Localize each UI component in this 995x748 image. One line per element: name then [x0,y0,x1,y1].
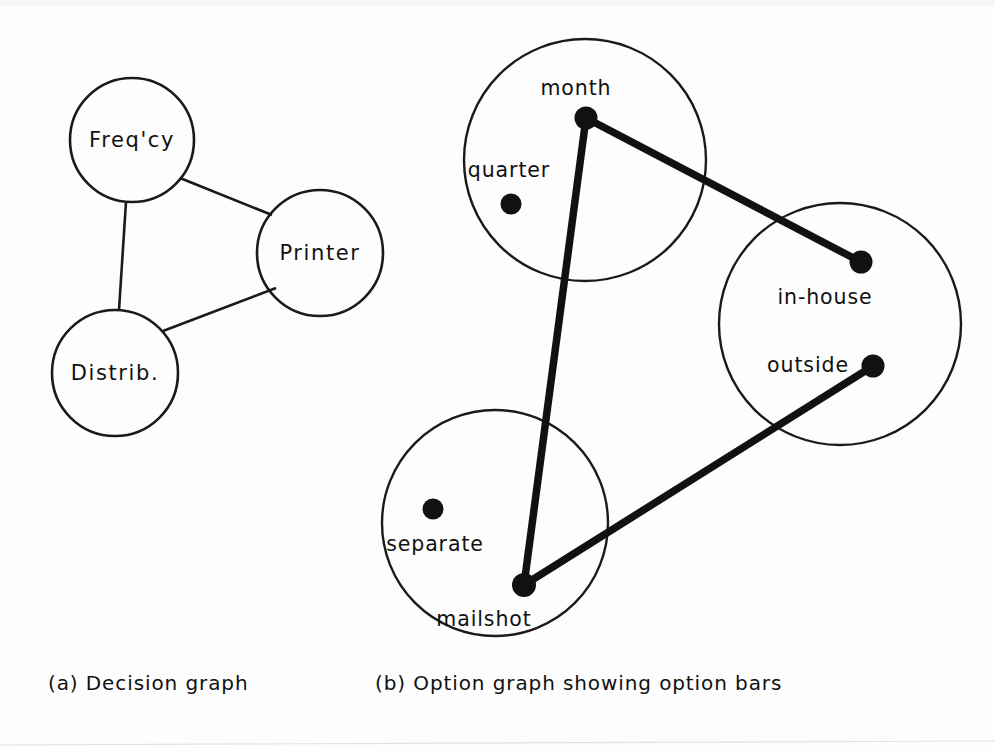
figure-canvas: Freq'cy Printer Distrib. (a) Decision gr… [0,0,995,748]
option-dot-quarter[interactable] [501,194,522,215]
option-bar-month-inhouse[interactable] [586,118,861,262]
cluster-circle-delivery[interactable] [382,410,608,636]
decision-node-freqcy[interactable]: Freq'cy [70,78,194,202]
option-labels: month quarter in-house outside separate … [386,76,872,631]
edge-distrib-printer [163,288,276,331]
option-dot-separate[interactable] [423,499,444,520]
caption-panel-b: (b) Option graph showing option bars [375,671,782,695]
option-dot-in-house[interactable] [850,251,873,274]
option-label-separate: separate [386,532,484,556]
scan-artifact-bottom-edge [0,741,995,745]
cluster-circle-production[interactable] [719,203,961,445]
option-label-outside: outside [767,353,849,377]
caption-panel-a: (a) Decision graph [48,671,248,695]
decision-node-distrib[interactable]: Distrib. [52,310,178,436]
option-label-mailshot: mailshot [436,607,531,631]
decision-node-printer[interactable]: Printer [257,190,383,316]
figure-root: Freq'cy Printer Distrib. (a) Decision gr… [0,0,995,748]
node-label-freqcy: Freq'cy [89,128,175,152]
option-label-quarter: quarter [468,158,550,182]
edge-freqcy-distrib [119,202,126,310]
panel-option-graph: month quarter in-house outside separate … [375,39,961,695]
node-label-printer: Printer [279,241,360,265]
option-dot-mailshot[interactable] [512,573,536,597]
option-bar-mailshot-outside[interactable] [524,366,873,585]
option-bars [524,118,873,585]
edge-freqcy-printer [180,178,272,215]
option-dot-month[interactable] [575,107,598,130]
scan-artifact-top [0,0,995,6]
option-dot-outside[interactable] [862,355,885,378]
option-label-in-house: in-house [777,285,872,309]
option-label-month: month [540,76,611,100]
node-label-distrib: Distrib. [71,361,159,385]
option-bar-month-mailshot[interactable] [524,118,586,585]
panel-decision-graph: Freq'cy Printer Distrib. (a) Decision gr… [48,78,383,695]
